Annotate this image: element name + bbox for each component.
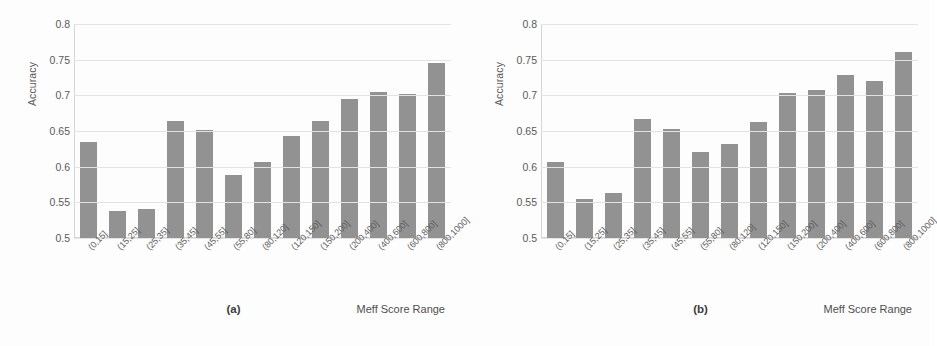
y-tick-label: 0.5 bbox=[522, 232, 537, 244]
x-label-slot: (120,150] bbox=[277, 240, 306, 302]
y-tick-label: 0.6 bbox=[55, 161, 70, 173]
x-label-slot: (0,15] bbox=[541, 240, 570, 302]
y-axis-title-b: Accuracy bbox=[493, 44, 505, 124]
bar bbox=[428, 63, 446, 238]
x-label-slot: (15,25] bbox=[103, 240, 132, 302]
x-label-slot: (400,600] bbox=[364, 240, 393, 302]
bar bbox=[399, 94, 417, 238]
gridline bbox=[74, 202, 451, 203]
x-label-slot: (200,400] bbox=[335, 240, 364, 302]
gridline bbox=[74, 95, 451, 96]
bar bbox=[576, 199, 594, 238]
bar bbox=[779, 93, 797, 238]
panel-caption-b: (b) bbox=[467, 303, 934, 315]
bar bbox=[547, 162, 565, 238]
bar bbox=[80, 142, 98, 238]
x-label-slot: (150,200] bbox=[773, 240, 802, 302]
x-label-slot: (400,600] bbox=[831, 240, 860, 302]
chart-panel-b: Accuracy 0.50.550.60.650.70.750.8 (0,15]… bbox=[467, 0, 934, 346]
y-axis-tick-labels-a: 0.50.550.60.650.70.750.8 bbox=[38, 24, 70, 238]
x-label-slot: (35,45] bbox=[628, 240, 657, 302]
bar bbox=[866, 81, 884, 238]
x-label-slot: (25,35] bbox=[132, 240, 161, 302]
plot-area-a bbox=[74, 24, 451, 238]
y-tick-label: 0.55 bbox=[50, 196, 70, 208]
x-label-slot: (200,400] bbox=[802, 240, 831, 302]
bar bbox=[254, 162, 272, 238]
x-label-slot: (0,15] bbox=[74, 240, 103, 302]
y-tick-label: 0.7 bbox=[522, 89, 537, 101]
x-label-slot: (55,80] bbox=[686, 240, 715, 302]
bar bbox=[750, 122, 768, 238]
y-axis-title-a: Accuracy bbox=[26, 44, 38, 124]
bar bbox=[167, 121, 185, 238]
gridline bbox=[541, 95, 918, 96]
bar bbox=[225, 175, 243, 238]
chart-panel-a: Accuracy 0.50.550.60.650.70.750.8 (0,15]… bbox=[0, 0, 467, 346]
x-label-slot: (15,25] bbox=[570, 240, 599, 302]
gridline bbox=[541, 24, 918, 25]
x-label-slot: (25,35] bbox=[599, 240, 628, 302]
x-label-slot: (600,800] bbox=[393, 240, 422, 302]
gridline bbox=[74, 60, 451, 61]
x-label-slot: (600,800] bbox=[860, 240, 889, 302]
gridline bbox=[541, 167, 918, 168]
y-tick-label: 0.8 bbox=[55, 18, 70, 30]
x-axis-tick-labels-a: (0,15](15,25](25,35](35,45](45,55](55,80… bbox=[74, 240, 451, 302]
x-label-slot: (120,150] bbox=[744, 240, 773, 302]
bar bbox=[837, 75, 855, 238]
x-axis-tick-labels-b: (0,15](15,25](25,35](35,45](45,55](55,80… bbox=[541, 240, 918, 302]
panel-caption-a: (a) bbox=[0, 303, 467, 315]
gridline bbox=[541, 131, 918, 132]
bar bbox=[895, 52, 913, 238]
x-label-slot: (55,80] bbox=[219, 240, 248, 302]
x-label-slot: (800,1000] bbox=[889, 240, 918, 302]
x-label-slot: (800,1000] bbox=[422, 240, 451, 302]
y-tick-label: 0.5 bbox=[55, 232, 70, 244]
gridline bbox=[74, 131, 451, 132]
bar bbox=[808, 90, 826, 238]
plot-area-b bbox=[541, 24, 918, 238]
bar bbox=[370, 92, 388, 238]
x-label-slot: (45,55] bbox=[657, 240, 686, 302]
y-tick-label: 0.7 bbox=[55, 89, 70, 101]
y-tick-label: 0.6 bbox=[522, 161, 537, 173]
y-tick-label: 0.65 bbox=[50, 125, 70, 137]
y-tick-label: 0.65 bbox=[517, 125, 537, 137]
y-axis-tick-labels-b: 0.50.550.60.650.70.750.8 bbox=[505, 24, 537, 238]
gridline bbox=[541, 60, 918, 61]
x-label-slot: (80,120] bbox=[248, 240, 277, 302]
gridline bbox=[74, 167, 451, 168]
x-label-slot: (35,45] bbox=[161, 240, 190, 302]
y-tick-label: 0.55 bbox=[517, 196, 537, 208]
bar bbox=[109, 211, 127, 238]
bar bbox=[692, 152, 710, 238]
plot-wrapper-a: Accuracy 0.50.550.60.650.70.750.8 (0,15]… bbox=[0, 0, 467, 346]
bar bbox=[634, 119, 652, 238]
gridline bbox=[541, 202, 918, 203]
x-label-slot: (80,120] bbox=[715, 240, 744, 302]
x-label-slot: (150,200] bbox=[306, 240, 335, 302]
y-tick-label: 0.75 bbox=[50, 54, 70, 66]
bar bbox=[196, 130, 214, 238]
bar bbox=[721, 144, 739, 238]
y-tick-label: 0.75 bbox=[517, 54, 537, 66]
x-label-slot: (45,55] bbox=[190, 240, 219, 302]
bar bbox=[283, 136, 301, 238]
bar bbox=[663, 129, 681, 238]
plot-wrapper-b: Accuracy 0.50.550.60.650.70.750.8 (0,15]… bbox=[467, 0, 934, 346]
gridline bbox=[74, 24, 451, 25]
bar bbox=[341, 99, 359, 238]
y-tick-label: 0.8 bbox=[522, 18, 537, 30]
